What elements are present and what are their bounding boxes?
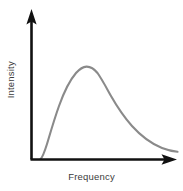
y-axis-label: Intensity xyxy=(6,61,16,98)
spectral-curve-figure: Intensity Frequency xyxy=(0,0,183,191)
y-axis-label-container: Intensity xyxy=(0,0,22,160)
intensity-curve xyxy=(41,67,178,159)
x-axis-label: Frequency xyxy=(0,172,183,182)
plot-canvas xyxy=(0,0,183,191)
